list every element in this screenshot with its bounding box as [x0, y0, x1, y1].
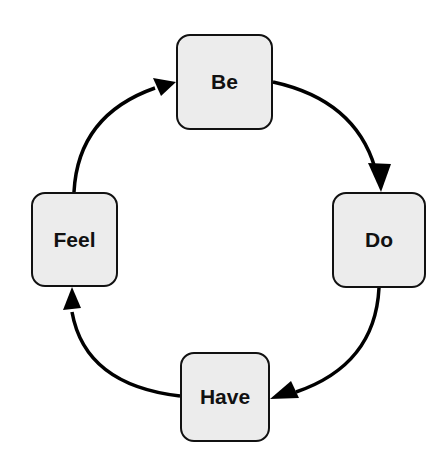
- node-feel: Feel: [31, 192, 118, 287]
- arrow-be-to-do: [273, 82, 391, 192]
- node-be-label: Be: [211, 70, 238, 94]
- arrow-have-to-feel: [63, 287, 180, 396]
- node-do-label: Do: [365, 228, 393, 252]
- node-be: Be: [176, 34, 273, 130]
- arrow-feel-to-be: [74, 78, 176, 192]
- cycle-diagram: Be Do Have Feel: [0, 0, 447, 465]
- node-have-label: Have: [200, 385, 250, 409]
- node-have: Have: [180, 352, 270, 442]
- arrow-do-to-have: [270, 288, 379, 399]
- node-feel-label: Feel: [53, 228, 95, 252]
- node-do: Do: [332, 192, 426, 288]
